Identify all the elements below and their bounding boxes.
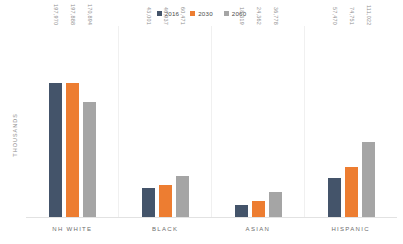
bar-2016-hispanic[interactable] (328, 178, 341, 217)
bar-2016-asian[interactable] (235, 205, 248, 217)
plot-wrapper: THOUSANDS 197,970197,888170,89443,00146,… (0, 22, 403, 244)
bar-2016-nh-white[interactable] (49, 83, 62, 217)
bar-2030-black[interactable] (159, 185, 172, 217)
bar-value-label: 57,470 (331, 7, 336, 25)
bar-slot: 46,937 (159, 26, 172, 217)
bar-group-hispanic: 57,47074,751111,022 (304, 26, 397, 217)
bar-group-nh-white: 197,970197,888170,894 (26, 26, 118, 217)
bar-slot: 60,471 (176, 26, 189, 217)
y-axis-title-column: THOUSANDS (4, 26, 26, 244)
x-tick-asian: ASIAN (212, 226, 305, 232)
bar-value-label: 36,778 (272, 7, 277, 25)
legend-swatch-2016 (157, 11, 162, 16)
legend-item-2030[interactable]: 2030 (190, 11, 213, 17)
bar-value-label: 24,362 (255, 7, 260, 25)
bar-slot: 170,894 (83, 26, 96, 217)
plot-body: 197,970197,888170,89443,00146,93760,4711… (26, 26, 397, 244)
bar-2060-asian[interactable] (269, 192, 282, 217)
x-tick-black: BLACK (119, 226, 212, 232)
bar-2060-black[interactable] (176, 176, 189, 217)
bar-value-label: 43,001 (145, 7, 150, 25)
bar-value-label: 111,022 (365, 5, 370, 25)
bar-slot: 18,319 (235, 26, 248, 217)
bar-2030-asian[interactable] (252, 201, 265, 217)
bar-value-label: 60,471 (179, 7, 184, 25)
bar-value-label: 18,319 (238, 7, 243, 25)
bar-group-black: 43,00146,93760,471 (118, 26, 211, 217)
bar-value-label: 197,970 (52, 4, 57, 25)
bar-slot: 74,751 (345, 26, 358, 217)
legend-swatch-2060 (224, 11, 229, 16)
chart-legend: 2016 2030 2060 (0, 0, 403, 22)
bar-slot: 111,022 (362, 26, 375, 217)
bar-slot: 197,888 (66, 26, 79, 217)
bar-2030-hispanic[interactable] (345, 167, 358, 217)
legend-label-2030: 2030 (198, 11, 213, 17)
bar-2030-nh-white[interactable] (66, 83, 79, 217)
bar-slot: 36,778 (269, 26, 282, 217)
bar-group-asian: 18,31924,36236,778 (211, 26, 304, 217)
bar-value-label: 197,888 (69, 4, 74, 25)
bar-slot: 24,362 (252, 26, 265, 217)
bar-value-label: 46,937 (162, 7, 167, 25)
bar-2016-black[interactable] (142, 188, 155, 217)
legend-swatch-2030 (190, 11, 195, 16)
bar-2060-nh-white[interactable] (83, 102, 96, 217)
x-tick-nh-white: NH WHITE (26, 226, 119, 232)
x-axis: NH WHITEBLACKASIANHISPANIC (26, 218, 397, 244)
x-tick-hispanic: HISPANIC (304, 226, 397, 232)
bar-slot: 43,001 (142, 26, 155, 217)
bar-value-label: 170,894 (86, 4, 91, 25)
bar-chart: 2016 2030 2060 THOUSANDS 197,970197,8881… (0, 0, 403, 244)
bar-2060-hispanic[interactable] (362, 142, 375, 217)
bar-groups: 197,970197,888170,89443,00146,93760,4711… (26, 26, 397, 218)
bar-value-label: 74,751 (348, 7, 353, 25)
y-axis-title: THOUSANDS (12, 113, 18, 157)
bar-slot: 57,470 (328, 26, 341, 217)
bar-slot: 197,970 (49, 26, 62, 217)
